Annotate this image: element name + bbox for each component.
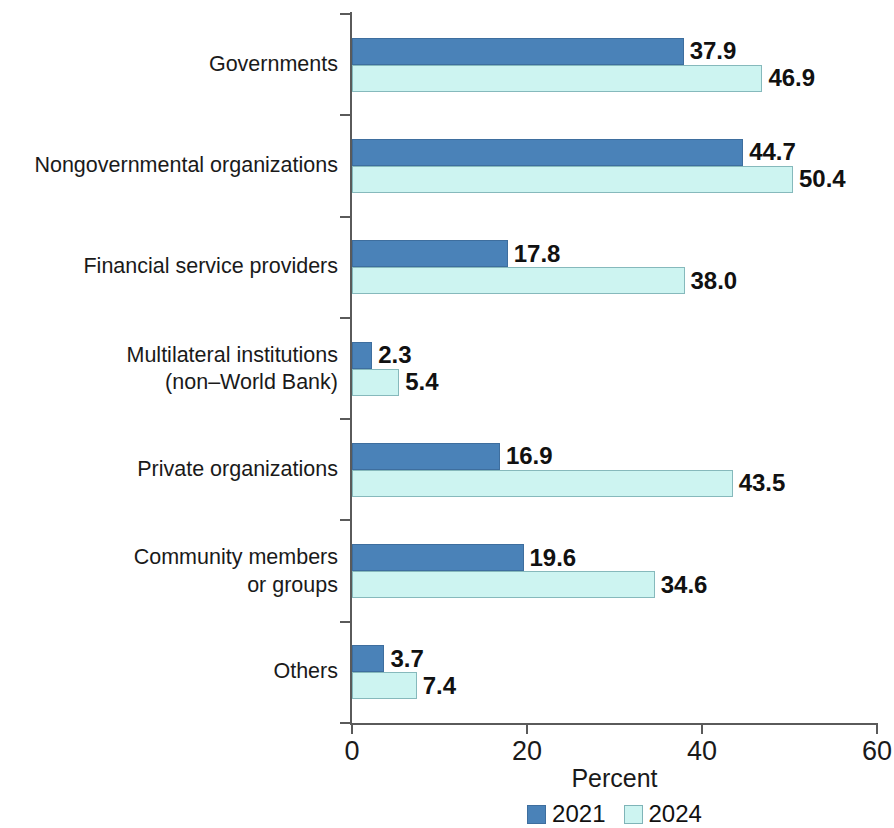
bar-value-label: 5.4 [405, 368, 438, 396]
bar-2021-6[interactable] [352, 645, 384, 672]
category-label-line: Governments [0, 51, 338, 79]
x-axis-tick-label: 60 [862, 736, 892, 767]
bar-2021-4[interactable] [352, 443, 500, 470]
y-axis-tick [340, 519, 351, 521]
legend-swatch-2021-icon [527, 805, 546, 824]
bar-2024-4[interactable] [352, 470, 733, 497]
legend-item-2021[interactable]: 2021 [527, 800, 605, 828]
x-axis-tick-label: 0 [344, 736, 359, 767]
bar-value-label: 46.9 [768, 64, 815, 92]
legend-swatch-2024-icon [624, 805, 643, 824]
category-label: Multilateral institutions(non–World Bank… [0, 341, 338, 396]
y-axis-tick [340, 621, 351, 623]
y-axis-tick [340, 114, 351, 116]
bar-value-label: 19.6 [530, 544, 577, 572]
category-label-line: (non–World Bank) [0, 369, 338, 397]
x-axis-tick-label: 40 [687, 736, 717, 767]
category-label: Private organizations [0, 456, 338, 484]
category-label-line: Community members [0, 544, 338, 572]
x-axis-title: Percent [352, 764, 877, 793]
legend-label-2021: 2021 [552, 800, 605, 828]
bar-2024-2[interactable] [352, 267, 685, 294]
legend-label-2024: 2024 [649, 800, 702, 828]
bar-2024-6[interactable] [352, 672, 417, 699]
y-axis-tick [340, 216, 351, 218]
x-axis-tick-label: 20 [512, 736, 542, 767]
category-label: Community membersor groups [0, 544, 338, 599]
bar-value-label: 3.7 [390, 645, 423, 673]
bar-2021-2[interactable] [352, 240, 508, 267]
x-axis-tick [526, 723, 528, 734]
category-label: Nongovernmental organizations [0, 152, 338, 180]
bar-2024-0[interactable] [352, 65, 762, 92]
y-axis-tick [340, 418, 351, 420]
category-label: Others [0, 659, 338, 687]
bar-value-label: 7.4 [423, 672, 456, 700]
bar-value-label: 34.6 [661, 571, 708, 599]
bar-2021-3[interactable] [352, 342, 372, 369]
bar-value-label: 2.3 [378, 341, 411, 369]
bar-value-label: 37.9 [690, 37, 737, 65]
y-axis-tick [340, 317, 351, 319]
x-axis-tick [351, 723, 353, 734]
category-label-line: Nongovernmental organizations [0, 152, 338, 180]
category-label-line: Financial service providers [0, 253, 338, 281]
x-axis-tick [701, 723, 703, 734]
category-label: Governments [0, 51, 338, 79]
bar-2021-1[interactable] [352, 139, 743, 166]
x-axis-tick [876, 723, 878, 734]
category-label-line: Others [0, 659, 338, 687]
bar-2021-0[interactable] [352, 38, 684, 65]
x-axis-line [350, 723, 877, 725]
legend-item-2024[interactable]: 2024 [624, 800, 702, 828]
bar-value-label: 44.7 [749, 138, 796, 166]
category-label: Financial service providers [0, 253, 338, 281]
category-label-line: Multilateral institutions [0, 341, 338, 369]
bar-2024-3[interactable] [352, 369, 399, 396]
bar-2021-5[interactable] [352, 544, 524, 571]
bar-value-label: 43.5 [739, 469, 786, 497]
bar-value-label: 16.9 [506, 442, 553, 470]
bar-value-label: 50.4 [799, 165, 846, 193]
bar-2024-1[interactable] [352, 166, 793, 193]
category-label-line: Private organizations [0, 456, 338, 484]
bar-value-label: 38.0 [691, 267, 738, 295]
y-axis-tick [340, 13, 351, 15]
y-axis-tick [340, 722, 351, 724]
legend: 2021 2024 [352, 800, 877, 828]
bar-chart: GovernmentsNongovernmental organizations… [0, 0, 894, 828]
bar-value-label: 17.8 [514, 240, 561, 268]
bar-2024-5[interactable] [352, 571, 655, 598]
category-label-line: or groups [0, 571, 338, 599]
